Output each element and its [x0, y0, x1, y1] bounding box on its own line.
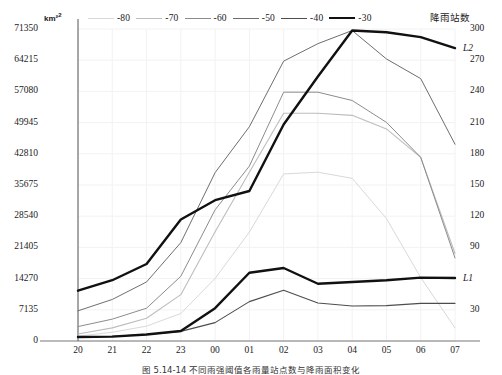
plot-area: [0, 0, 502, 375]
series-label-L2: L2: [463, 43, 473, 53]
series-line--30: [78, 31, 455, 291]
series-label-L1: L1: [463, 273, 473, 283]
chart-root: km²2 降雨站数 -80-70-60-50-40-30 07135142702…: [0, 0, 502, 375]
series-line--70: [78, 113, 455, 334]
series-line--60: [78, 92, 455, 326]
series-line--40: [78, 290, 455, 337]
figure-caption: 图 5.14-14 不同雨强阈值各雨量站点数与降雨面积变化: [0, 363, 502, 375]
